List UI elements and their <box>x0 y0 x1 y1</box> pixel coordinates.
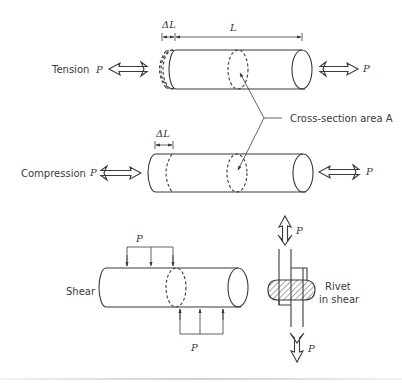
force-label: P <box>89 167 97 178</box>
cross-section-callout: Cross-section area A <box>238 73 393 170</box>
tension-cylinder <box>160 50 313 89</box>
tension-force-arrow-right <box>320 62 358 76</box>
force-label: P <box>295 225 303 236</box>
length-label: L <box>229 22 237 33</box>
force-label: P <box>190 342 198 353</box>
cross-section-dashed <box>227 154 247 192</box>
compression-group: ΔL Compression P P <box>21 128 373 192</box>
shear-plane-dashed <box>166 268 186 307</box>
dimension-line: ΔL L <box>161 19 302 41</box>
page-divider <box>0 378 402 380</box>
compression-force-arrow-right <box>319 165 359 179</box>
rivet-force-arrow-down <box>290 333 304 362</box>
force-label: P <box>135 233 143 244</box>
force-label: P <box>95 64 103 75</box>
rivet-label-line2: in shear <box>319 294 360 305</box>
dimension-line: ΔL <box>155 128 173 149</box>
shear-top-forces: P <box>127 233 173 266</box>
compression-label: Compression <box>21 168 86 179</box>
compression-cylinder <box>148 154 313 192</box>
stress-diagram: ΔL L Tension P P Cross-section area A <box>0 0 402 383</box>
rivet-shape <box>268 280 315 300</box>
delta-length-label: ΔL <box>155 128 170 139</box>
rivet-group: P P Rivet in shear <box>268 216 360 362</box>
delta-length-label: ΔL <box>161 19 176 30</box>
tension-group: ΔL L Tension P P <box>51 19 370 89</box>
compression-force-arrow-left <box>101 166 141 180</box>
shear-bottom-forces: P <box>180 309 223 353</box>
rivet-label-line1: Rivet <box>325 281 351 292</box>
rivet-force-arrow-up <box>278 216 292 245</box>
shear-group: P P Shear <box>66 233 248 353</box>
tension-label: Tension <box>51 64 89 75</box>
shear-cylinder <box>99 268 248 307</box>
cross-section-label: Cross-section area A <box>290 113 393 124</box>
force-label: P <box>362 63 370 74</box>
shear-label: Shear <box>66 286 96 297</box>
force-label: P <box>307 343 315 354</box>
tension-force-arrow-left <box>109 62 147 76</box>
force-label: P <box>365 166 373 177</box>
